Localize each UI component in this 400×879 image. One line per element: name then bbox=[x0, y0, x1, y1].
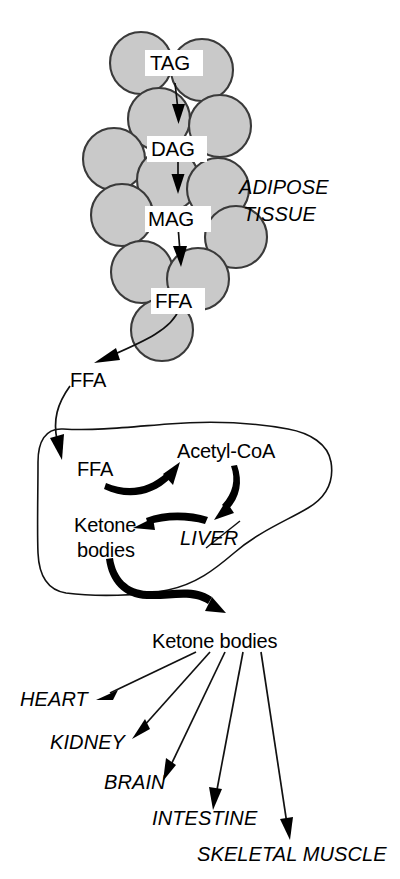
label-liver-ketone-bodies-group: Ketone bodies bbox=[74, 514, 136, 561]
arrow-to-heart-shaft bbox=[110, 652, 196, 693]
label-organ-skeletal-muscle: SKELETAL MUSCLE bbox=[197, 843, 387, 865]
adipocyte bbox=[83, 128, 145, 190]
label-liver-ketone-bodies-line1: Ketone bbox=[74, 514, 136, 536]
arrow-to-liver-ketones-shaft bbox=[146, 513, 208, 525]
arrow-to-skeletal-muscle-shaft bbox=[261, 652, 287, 824]
label-ffa-adipose-group: FFA bbox=[151, 288, 205, 314]
arrow-to-brain-shaft bbox=[170, 652, 225, 767]
label-mag: MAG bbox=[148, 207, 194, 230]
arrow-ffa-export-head bbox=[94, 348, 120, 363]
arrow-acetylcoa-to-ketones-group bbox=[214, 465, 240, 520]
label-liver-ketone-bodies-line2: bodies bbox=[77, 539, 135, 561]
label-liver: LIVER bbox=[180, 527, 238, 549]
arrow-ffa-to-acetylcoa-shaft bbox=[104, 473, 171, 495]
arrow-to-skeletal-muscle-head bbox=[280, 817, 293, 840]
arrow-ffa-to-acetylcoa-group bbox=[104, 462, 180, 495]
label-organ-kidney: KIDNEY bbox=[50, 731, 127, 753]
label-tag: TAG bbox=[150, 51, 190, 74]
adipocyte bbox=[91, 184, 153, 246]
label-organ-intestine: INTESTINE bbox=[152, 807, 258, 829]
label-dag-group: DAG bbox=[147, 136, 207, 162]
label-organ-brain: BRAIN bbox=[104, 771, 166, 793]
label-adipose-tissue-group: ADIPOSE TISSUE bbox=[238, 176, 329, 225]
arrow-ffa-into-liver-shaft bbox=[56, 386, 70, 440]
label-acetyl-coa: Acetyl-CoA bbox=[177, 440, 276, 462]
label-blood-ketone-bodies: Ketone bodies bbox=[152, 630, 277, 652]
label-adipose-tissue-line1: ADIPOSE bbox=[238, 176, 329, 198]
arrow-to-intestine-shaft bbox=[216, 652, 243, 795]
label-tag-group: TAG bbox=[145, 50, 203, 76]
label-dag: DAG bbox=[151, 137, 195, 160]
arrow-to-liver-ketones-head bbox=[133, 518, 155, 530]
label-organ-heart: HEART bbox=[20, 688, 90, 710]
label-ffa-circulating: FFA bbox=[70, 369, 107, 391]
arrow-to-kidney-shaft bbox=[143, 652, 210, 727]
label-ffa-liver: FFA bbox=[77, 458, 114, 480]
arrow-ffa-into-liver-group bbox=[50, 386, 70, 460]
arrow-ffa-into-liver-head bbox=[50, 434, 64, 460]
pathway-svg-canvas: TAG DAG MAG FFA ADIPOSE TISSUE FFA FFA A… bbox=[0, 0, 400, 879]
metabolic-pathway-diagram: TAG DAG MAG FFA ADIPOSE TISSUE FFA FFA A… bbox=[0, 0, 400, 879]
arrow-ketones-to-blood-group bbox=[106, 558, 226, 613]
label-mag-group: MAG bbox=[145, 206, 211, 232]
arrow-ketones-to-blood-shaft bbox=[106, 558, 212, 604]
label-adipose-tissue-line2: TISSUE bbox=[243, 203, 316, 225]
label-ffa-adipose: FFA bbox=[155, 289, 193, 312]
